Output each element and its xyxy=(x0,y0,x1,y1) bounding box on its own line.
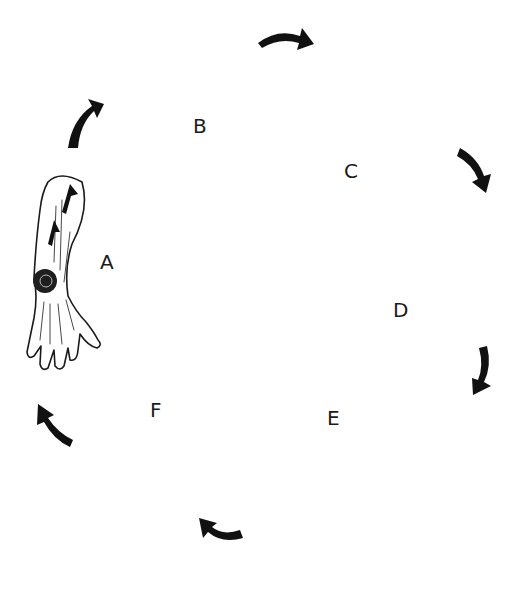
cycle-arrow-d-to-e xyxy=(472,346,491,395)
cycle-arrow-a-to-b xyxy=(68,99,104,148)
stage-label-b: B xyxy=(193,116,207,136)
cycle-diagram xyxy=(0,0,524,590)
stage-label-c: C xyxy=(344,161,358,181)
cycle-arrow-b-to-c xyxy=(258,28,314,50)
stage-a-arm-illustration xyxy=(27,176,100,369)
stage-label-d: D xyxy=(393,300,408,320)
stage-label-e: E xyxy=(327,408,340,428)
cycle-arrow-c-to-d xyxy=(457,148,491,193)
cycle-arrow-e-to-f xyxy=(199,518,243,540)
stage-label-a: A xyxy=(100,252,114,272)
cycle-arrow-f-to-a xyxy=(37,404,73,447)
stage-label-f: F xyxy=(150,400,162,420)
